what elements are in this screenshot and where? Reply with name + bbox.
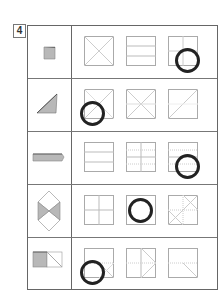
option-cell[interactable]	[126, 248, 156, 278]
option-cell[interactable]	[84, 142, 114, 172]
answer-table	[27, 25, 218, 290]
table-row	[28, 79, 217, 132]
selected-answer-circle	[175, 48, 200, 73]
option-cell[interactable]	[84, 195, 114, 225]
table-row	[28, 238, 217, 291]
selected-answer-circle	[80, 260, 105, 285]
table-row	[28, 185, 217, 238]
folded-square-icon	[28, 26, 71, 79]
option-cell[interactable]	[126, 142, 156, 172]
option-cell[interactable]	[84, 36, 114, 66]
option-cell[interactable]	[168, 195, 198, 225]
table-row	[28, 26, 217, 79]
option-cell[interactable]	[168, 248, 198, 278]
option-cell[interactable]	[126, 36, 156, 66]
question-number-badge: 4	[13, 24, 26, 38]
folded-triangle-icon	[28, 79, 71, 132]
selected-answer-circle	[175, 154, 200, 179]
folded-diamond-icon	[28, 185, 71, 238]
folded-strip-icon	[28, 132, 71, 185]
selected-answer-circle	[80, 101, 105, 126]
option-cell[interactable]	[168, 89, 198, 119]
selected-answer-circle	[128, 198, 153, 223]
option-cell[interactable]	[126, 89, 156, 119]
table-row	[28, 132, 217, 185]
folded-half-triangle-icon	[28, 238, 71, 291]
